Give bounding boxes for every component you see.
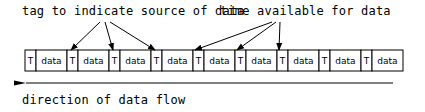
data-cell: data (372, 50, 403, 71)
data-cell: data (36, 50, 67, 71)
svg-text:T: T (153, 56, 160, 66)
svg-text:data: data (83, 56, 103, 66)
svg-text:T: T (321, 56, 328, 66)
svg-text:data: data (293, 56, 313, 66)
frame-cells: TdataTdataTdataTdataTdataTdataTdataTdata… (25, 50, 403, 71)
svg-text:T: T (111, 56, 118, 66)
time-pointer-arrow (195, 22, 272, 50)
tag-cell: T (67, 50, 78, 71)
data-cell: data (120, 50, 151, 71)
flow-direction-label: direction of data flow (22, 93, 185, 107)
tag-cell: T (319, 50, 330, 71)
time-pointer-arrow (279, 22, 280, 50)
svg-text:T: T (363, 56, 370, 66)
tag-cell: T (25, 50, 36, 71)
tag-cell: T (235, 50, 246, 71)
data-cell: data (288, 50, 319, 71)
svg-text:data: data (209, 56, 229, 66)
svg-text:T: T (237, 56, 244, 66)
data-cell: data (246, 50, 277, 71)
data-cell: data (162, 50, 193, 71)
tag-pointer-arrow (71, 22, 100, 50)
tag-cell: T (361, 50, 372, 71)
data-cell: data (204, 50, 235, 71)
svg-text:T: T (279, 56, 286, 66)
svg-text:T: T (27, 56, 34, 66)
tag-cell: T (277, 50, 288, 71)
svg-text:data: data (125, 56, 145, 66)
data-cell: data (78, 50, 109, 71)
svg-text:data: data (41, 56, 61, 66)
svg-text:T: T (195, 56, 202, 66)
svg-text:data: data (251, 56, 271, 66)
svg-text:data: data (377, 56, 397, 66)
time-pointer-arrow (237, 22, 276, 50)
annotation-arrows (71, 22, 280, 50)
data-cell: data (330, 50, 361, 71)
tag-cell: T (151, 50, 162, 71)
svg-text:data: data (335, 56, 355, 66)
tag-cell: T (193, 50, 204, 71)
tag-pointer-arrow (110, 22, 155, 50)
tag-pointer-arrow (105, 22, 113, 50)
svg-text:T: T (69, 56, 76, 66)
tag-cell: T (109, 50, 120, 71)
svg-text:data: data (167, 56, 187, 66)
